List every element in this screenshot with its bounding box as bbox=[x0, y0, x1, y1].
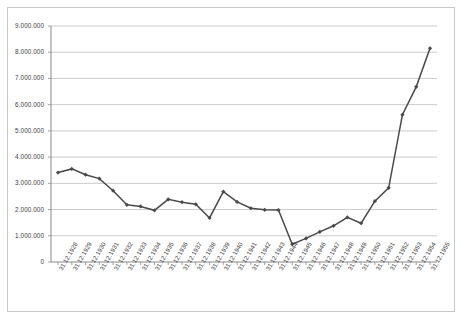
y-axis-tick-label: 1.000.000 bbox=[0, 232, 44, 239]
data-point-markers bbox=[56, 46, 432, 246]
data-point-marker bbox=[139, 204, 143, 208]
data-point-marker bbox=[263, 208, 267, 212]
data-point-marker bbox=[428, 46, 432, 50]
data-point-marker bbox=[180, 200, 184, 204]
data-point-marker bbox=[56, 170, 60, 174]
y-axis-tick-label: 5.000.000 bbox=[0, 127, 44, 134]
y-axis-tick-label: 9.000.000 bbox=[0, 22, 44, 29]
y-axis-tick-label: 6.000.000 bbox=[0, 101, 44, 108]
y-axis-tick-label: 8.000.000 bbox=[0, 48, 44, 55]
plot-area-border bbox=[51, 26, 437, 262]
y-axis-tick-label: 4.000.000 bbox=[0, 153, 44, 160]
y-axis-tick-label: 7.000.000 bbox=[0, 74, 44, 81]
data-series-line bbox=[58, 48, 430, 244]
y-axis-tick-label: 3.000.000 bbox=[0, 179, 44, 186]
data-point-marker bbox=[276, 208, 280, 212]
line-chart bbox=[0, 0, 462, 321]
y-axis-tick-label: 0 bbox=[0, 258, 44, 265]
y-axis-tick-label: 2.000.000 bbox=[0, 206, 44, 213]
gridlines bbox=[48, 26, 437, 262]
data-point-marker bbox=[70, 167, 74, 171]
data-point-marker bbox=[83, 173, 87, 177]
